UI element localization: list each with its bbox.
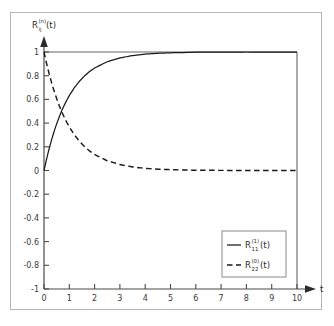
y-tick-label: 0.6 (26, 95, 39, 104)
x-tick-label: 1 (67, 294, 72, 303)
y-tick-label: -0.2 (23, 190, 39, 199)
y-tick-label: -1 (31, 285, 39, 294)
x-tick-label: 0 (41, 294, 46, 303)
x-tick-label: 5 (168, 294, 173, 303)
y-tick-label: -0.8 (23, 261, 39, 270)
legend-label-sub: 22 (252, 266, 259, 272)
legend: R 11 (1) (t) R 22 (0) (t) (222, 231, 286, 277)
y-axis-label-arg: (t) (46, 20, 56, 30)
legend-label-arg: (t) (260, 260, 270, 270)
y-axis-label-base: R (32, 20, 38, 30)
y-tick-label: -0.6 (23, 238, 39, 247)
y-tick-label: 0.2 (26, 143, 39, 152)
x-tick-label: 7 (219, 294, 224, 303)
y-axis-label-sup: (n) (39, 18, 47, 24)
y-axis-label: R ij (n) (t) (32, 18, 56, 33)
x-tick-labels: 0 1 2 3 4 5 6 7 8 9 10 (41, 294, 302, 303)
legend-label-base: R (245, 240, 251, 250)
x-tick-label: 2 (92, 294, 97, 303)
y-tick-label: 0 (34, 167, 39, 176)
series-line-solid (44, 52, 297, 171)
y-tick-label: -0.4 (23, 214, 39, 223)
legend-label-arg: (t) (260, 240, 270, 250)
x-axis-ticks (44, 284, 297, 289)
legend-label-base: R (245, 260, 251, 270)
x-axis-arrowhead (305, 285, 316, 292)
legend-label-sub: 11 (252, 246, 259, 252)
x-tick-label: 6 (193, 294, 198, 303)
y-tick-labels: 1 0.8 0.6 0.4 0.2 0 -0.2 -0.4 -0.6 -0.8 … (23, 48, 39, 294)
y-axis-arrowhead (40, 36, 48, 47)
legend-label-sup: (0) (252, 258, 260, 264)
y-axis-ticks (44, 52, 49, 289)
y-tick-label: 0.8 (26, 72, 39, 81)
x-tick-label: 4 (143, 294, 148, 303)
plot-canvas: 1 0.8 0.6 0.4 0.2 0 -0.2 -0.4 -0.6 -0.8 … (0, 0, 334, 326)
series-line-dashed (44, 52, 297, 171)
x-tick-label: 9 (269, 294, 274, 303)
figure-container: 1 0.8 0.6 0.4 0.2 0 -0.2 -0.4 -0.6 -0.8 … (0, 0, 334, 326)
y-tick-label: 1 (34, 48, 39, 57)
x-tick-label: 3 (117, 294, 122, 303)
x-tick-label: 10 (292, 294, 302, 303)
y-tick-label: 0.4 (26, 119, 39, 128)
x-axis-label: t (320, 284, 324, 294)
legend-label-sup: (1) (252, 238, 260, 244)
x-tick-label: 8 (244, 294, 249, 303)
y-axis-label-sub: ij (39, 26, 42, 33)
